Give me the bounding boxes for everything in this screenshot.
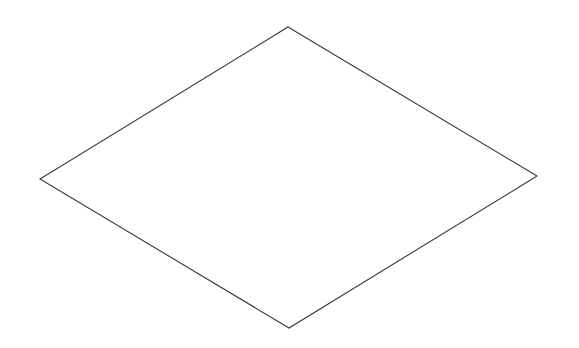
rhombus-shape — [40, 27, 537, 328]
diagram-canvas — [0, 0, 579, 348]
